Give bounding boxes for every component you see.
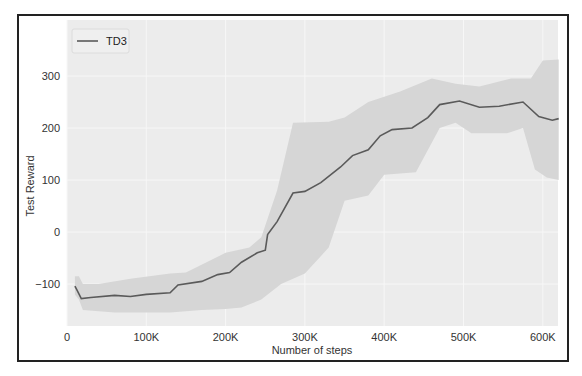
- x-axis-label: Number of steps: [272, 344, 353, 356]
- x-tick-label: 600K: [530, 331, 556, 343]
- legend: TD3: [72, 29, 129, 53]
- x-tick-label: 400K: [371, 331, 397, 343]
- x-tick-label: 0: [64, 331, 70, 343]
- x-tick-label: 500K: [451, 331, 477, 343]
- x-tick-label: 200K: [213, 331, 239, 343]
- y-tick-label: 100: [42, 174, 60, 186]
- x-tick-label: 100K: [133, 331, 159, 343]
- x-tick-label: 300K: [292, 331, 318, 343]
- y-tick-label: 0: [54, 226, 60, 238]
- y-tick-label: 200: [42, 122, 60, 134]
- x-axis-ticks: 0100K200K300K400K500K600K: [64, 331, 556, 343]
- y-axis-label: Test Reward: [24, 155, 36, 216]
- reward-chart: 0100K200K300K400K500K600K −1000100200300…: [0, 0, 582, 376]
- legend-label-td3: TD3: [106, 35, 127, 47]
- y-tick-label: 300: [42, 70, 60, 82]
- y-axis-ticks: −1000100200300: [35, 70, 60, 290]
- y-tick-label: −100: [35, 278, 60, 290]
